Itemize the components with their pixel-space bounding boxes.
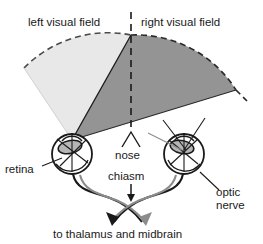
chiasm-pointer: [127, 184, 135, 202]
visual-pathway-diagram: left visual field right visual field nos…: [0, 0, 263, 244]
nose-caret-icon: [122, 132, 140, 147]
pathway-arrowheads: [106, 212, 152, 226]
arrow-right-output: [139, 212, 152, 226]
label-nose: nose: [115, 149, 140, 161]
label-destination: to thalamus and midbrain: [53, 228, 182, 240]
label-optic-nerve-line2: nerve: [216, 199, 245, 211]
label-left-visual-field: left visual field: [28, 16, 100, 28]
label-chiasm: chiasm: [108, 170, 144, 182]
right-field-arc-tail: [236, 90, 247, 101]
left-eye: [52, 133, 92, 174]
diagram-canvas: left visual field right visual field nos…: [0, 0, 263, 244]
label-retina: retina: [5, 163, 34, 175]
label-optic-nerve-line1: optic: [216, 186, 241, 198]
right-eye: [164, 133, 204, 174]
label-right-visual-field: right visual field: [141, 16, 220, 28]
